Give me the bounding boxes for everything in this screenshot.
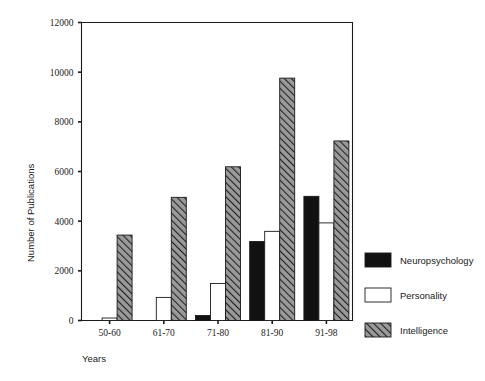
- bar-neuropsychology-71-80: [196, 316, 211, 321]
- bar-personality-91-98: [319, 223, 334, 321]
- bar-intelligence-71-80: [226, 167, 241, 321]
- y-tick-label-12000: 12000: [50, 18, 74, 28]
- legend-label-personality: Personality: [400, 290, 447, 301]
- y-tick-label-6000: 6000: [55, 167, 74, 177]
- x-axis-title: Years: [82, 353, 106, 364]
- bar-intelligence-81-90: [280, 78, 295, 320]
- bar-intelligence-50-60: [117, 235, 132, 320]
- y-tick-label-2000: 2000: [55, 266, 74, 276]
- y-tick-label-10000: 10000: [50, 68, 74, 78]
- legend-swatch-intelligence: [365, 323, 391, 337]
- bar-neuropsychology-81-90: [250, 242, 265, 321]
- y-tick-label-8000: 8000: [55, 117, 74, 127]
- bar-personality-61-70: [156, 297, 171, 320]
- bar-neuropsychology-91-98: [304, 196, 319, 320]
- y-tick-label-4000: 4000: [55, 217, 74, 227]
- x-tick-label-50-60: 50-60: [99, 328, 121, 338]
- y-tick-label-0: 0: [69, 316, 74, 326]
- bar-personality-81-90: [265, 231, 280, 320]
- publications-bar-chart: 020004000600080001000012000 50-6061-7071…: [0, 0, 485, 381]
- bar-intelligence-91-98: [334, 141, 349, 321]
- bar-personality-71-80: [211, 283, 226, 320]
- legend-swatch-neuropsychology: [365, 253, 391, 267]
- legend-swatch-personality: [365, 288, 391, 302]
- x-tick-label-81-90: 81-90: [261, 328, 283, 338]
- x-tick-label-91-98: 91-98: [315, 328, 337, 338]
- legend-label-neuropsychology: Neuropsychology: [400, 255, 474, 266]
- bar-personality-50-60: [102, 318, 117, 320]
- bar-intelligence-61-70: [171, 197, 186, 320]
- legend-label-intelligence: Intelligence: [400, 325, 448, 336]
- x-tick-label-71-80: 71-80: [207, 328, 229, 338]
- y-axis-title: Number of Publications: [25, 164, 36, 262]
- x-tick-label-61-70: 61-70: [153, 328, 175, 338]
- chart-canvas: 020004000600080001000012000 50-6061-7071…: [0, 0, 485, 381]
